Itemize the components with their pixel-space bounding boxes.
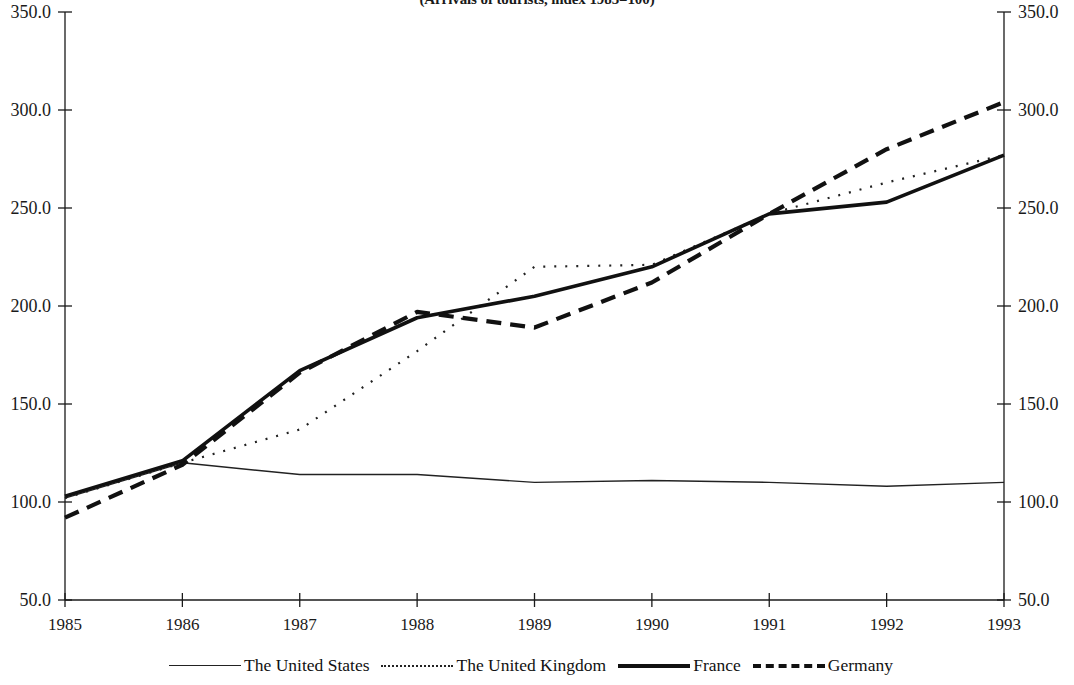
- chart-series: [65, 102, 1004, 518]
- y-axis-tick-label-right: 350.0: [1018, 2, 1059, 22]
- y-axis-tick-label-left: 50.0: [20, 590, 52, 610]
- y-axis-tick-label-right: 150.0: [1018, 394, 1059, 414]
- legend-swatch-thick-line-icon: [618, 664, 690, 668]
- legend-label: France: [690, 655, 753, 676]
- x-axis-tick-label: 1985: [48, 615, 82, 634]
- legend-item-germany: Germany: [753, 655, 905, 676]
- x-axis-tick-label: 1987: [283, 615, 318, 634]
- x-axis-tick-label: 1988: [400, 615, 434, 634]
- y-axis-tick-label-left: 250.0: [11, 198, 52, 218]
- x-axis-tick-label: 1986: [165, 615, 199, 634]
- chart-tick-labels: 50.050.0100.0100.0150.0150.0200.0200.025…: [11, 2, 1059, 634]
- legend-item-the-united-states: The United States: [169, 655, 381, 676]
- y-axis-tick-label-right: 250.0: [1018, 198, 1059, 218]
- y-axis-tick-label-left: 350.0: [11, 2, 52, 22]
- legend-item-the-united-kingdom: The United Kingdom: [381, 655, 618, 676]
- x-axis-tick-label: 1990: [635, 615, 669, 634]
- y-axis-tick-label-left: 100.0: [11, 492, 52, 512]
- legend-item-france: France: [618, 655, 753, 676]
- chart-line-germany: [65, 102, 1004, 518]
- legend-label: Germany: [825, 655, 905, 676]
- y-axis-tick-label-right: 200.0: [1018, 296, 1059, 316]
- y-axis-tick-label-right: 50.0: [1018, 590, 1050, 610]
- chart-legend: The United States The United Kingdom Fra…: [0, 655, 1074, 676]
- y-axis-tick-label-left: 200.0: [11, 296, 52, 316]
- chart-line-the-united-states: [65, 463, 1004, 498]
- y-axis-tick-label-left: 150.0: [11, 394, 52, 414]
- y-axis-tick-label-left: 300.0: [11, 100, 52, 120]
- legend-label: The United Kingdom: [453, 655, 618, 676]
- chart-plot-area: 50.050.0100.0100.0150.0150.0200.0200.025…: [0, 0, 1074, 685]
- legend-swatch-dotted-line-icon: [381, 665, 453, 667]
- x-axis-tick-label: 1992: [870, 615, 904, 634]
- y-axis-tick-label-right: 300.0: [1018, 100, 1059, 120]
- x-axis-tick-label: 1991: [752, 615, 786, 634]
- chart-root: (Arrivals of tourists, index 1985=100) 5…: [0, 0, 1074, 685]
- x-axis-tick-label: 1989: [518, 615, 552, 634]
- y-axis-tick-label-right: 100.0: [1018, 492, 1059, 512]
- legend-swatch-line-icon: [169, 665, 241, 666]
- x-axis-tick-label: 1993: [987, 615, 1021, 634]
- legend-label: The United States: [241, 655, 381, 676]
- legend-swatch-dashed-line-icon: [753, 664, 825, 668]
- chart-axes: [58, 12, 1011, 607]
